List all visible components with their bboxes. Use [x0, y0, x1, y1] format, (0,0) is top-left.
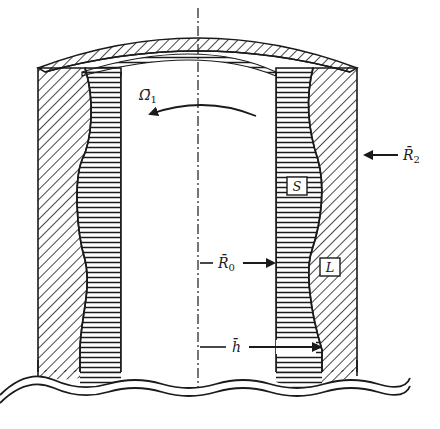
liquid-label-box: L	[320, 258, 340, 276]
diagram-canvas: Ω̄1 R̄2 R̄0 h̄ S L	[0, 0, 440, 429]
solid-label: S	[293, 179, 302, 194]
h-label: h̄	[232, 338, 241, 355]
solid-label-box: S	[287, 177, 307, 195]
r2-label: R̄2	[402, 146, 420, 165]
liquid-label: L	[325, 260, 335, 275]
